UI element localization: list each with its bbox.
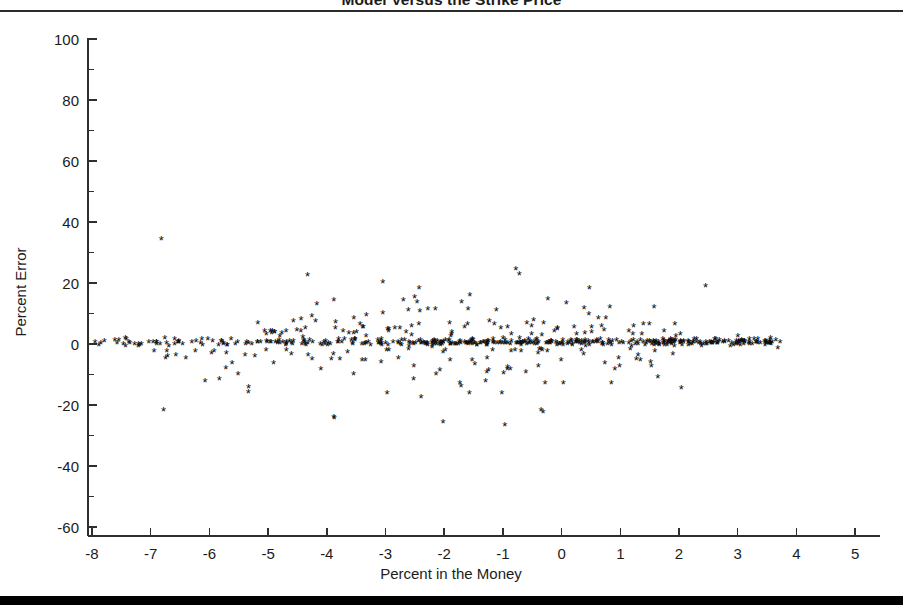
x-tick-label: 5 xyxy=(851,545,859,562)
data-point: * xyxy=(397,322,402,337)
data-point: * xyxy=(224,347,229,362)
data-point: * xyxy=(305,269,310,284)
data-point: * xyxy=(289,348,294,363)
data-point: * xyxy=(467,387,472,402)
data-point: * xyxy=(246,381,251,396)
figure-page: Model Versus the Strike Price -8-7-6-5-4… xyxy=(0,0,903,610)
data-point: * xyxy=(159,233,164,248)
data-point: * xyxy=(628,343,633,358)
data-point: * xyxy=(589,321,594,336)
data-point: * xyxy=(487,315,492,330)
data-point: * xyxy=(419,391,424,406)
data-point: * xyxy=(647,318,652,333)
data-point: * xyxy=(309,353,314,368)
data-point: * xyxy=(602,324,607,339)
data-point: * xyxy=(270,325,275,340)
data-point: * xyxy=(243,349,248,364)
data-point: * xyxy=(609,377,614,392)
data-point: * xyxy=(449,326,454,341)
x-tick-labels: -8-7-6-5-4-3-2-1012345 xyxy=(85,545,859,562)
data-point: * xyxy=(209,347,214,362)
data-point: * xyxy=(360,321,365,336)
data-point: * xyxy=(768,332,773,347)
data-point: * xyxy=(262,325,267,340)
data-point: * xyxy=(443,344,448,359)
data-point: * xyxy=(351,312,356,327)
data-point: * xyxy=(264,344,269,359)
y-tick-labels: -60-40-20020406080100 xyxy=(54,31,79,536)
data-point: * xyxy=(519,345,524,360)
data-point: * xyxy=(351,368,356,383)
data-point: * xyxy=(755,333,760,348)
data-point: * xyxy=(541,406,546,421)
y-tick-label: -20 xyxy=(57,397,79,414)
scatter-plot: -8-7-6-5-4-3-2-1012345 -60-40-2002040608… xyxy=(0,12,903,592)
data-point: * xyxy=(581,348,586,363)
x-tick-label: 3 xyxy=(734,545,742,562)
data-point: * xyxy=(173,349,178,364)
data-point: * xyxy=(255,317,260,332)
data-point: * xyxy=(707,336,712,351)
data-point: * xyxy=(340,325,345,340)
y-tick-label: 100 xyxy=(54,31,79,48)
x-tick-label: 0 xyxy=(557,545,565,562)
data-point: * xyxy=(523,366,528,381)
data-point: * xyxy=(152,345,157,360)
y-tick-label: 0 xyxy=(71,336,79,353)
tick-marks-group xyxy=(88,39,855,536)
data-point: * xyxy=(441,416,446,431)
data-point: * xyxy=(747,336,752,351)
data-point: * xyxy=(536,347,541,362)
y-tick-label: 60 xyxy=(62,153,79,170)
x-tick-label: -6 xyxy=(203,545,216,562)
data-point: * xyxy=(607,336,612,351)
data-point: * xyxy=(648,356,653,371)
data-point: * xyxy=(203,375,208,390)
data-point: * xyxy=(587,282,592,297)
data-point: * xyxy=(404,326,409,341)
data-point: * xyxy=(217,373,222,388)
data-point: * xyxy=(193,345,198,360)
data-point: * xyxy=(505,361,510,376)
y-tick-label: 20 xyxy=(62,275,79,292)
data-point: * xyxy=(641,318,646,333)
axes-group xyxy=(88,38,880,536)
data-point: * xyxy=(703,280,708,295)
data-point: * xyxy=(323,335,328,350)
data-point: * xyxy=(728,340,733,355)
data-point: * xyxy=(502,419,507,434)
data-point: * xyxy=(560,334,565,349)
data-point: * xyxy=(509,328,514,343)
data-point: * xyxy=(602,357,607,372)
data-point: * xyxy=(92,336,97,351)
data-point: * xyxy=(735,338,740,353)
data-point: * xyxy=(638,354,643,369)
data-point: * xyxy=(368,339,373,354)
data-point: * xyxy=(180,338,185,353)
data-point: * xyxy=(416,318,421,333)
data-point: * xyxy=(459,296,464,311)
data-point: * xyxy=(345,346,350,361)
data-point: * xyxy=(513,344,518,359)
data-point: * xyxy=(378,356,383,371)
data-point: * xyxy=(484,336,489,351)
data-point: * xyxy=(571,321,576,336)
y-axis-title: Percent Error xyxy=(12,247,29,336)
data-point: * xyxy=(198,337,203,352)
data-point: * xyxy=(474,339,479,354)
data-point: * xyxy=(564,297,569,312)
data-point: * xyxy=(411,373,416,388)
data-point: * xyxy=(161,404,166,419)
data-points-group: ****************************************… xyxy=(92,233,782,434)
data-point: * xyxy=(409,320,414,335)
data-point: * xyxy=(678,328,683,343)
data-point: * xyxy=(425,303,430,318)
data-point: * xyxy=(545,293,550,308)
data-point: * xyxy=(466,338,471,353)
x-tick-label: 1 xyxy=(616,545,624,562)
data-point: * xyxy=(380,276,385,291)
data-point: * xyxy=(513,263,518,278)
data-point: * xyxy=(337,353,342,368)
data-point: * xyxy=(541,317,546,332)
data-point: * xyxy=(596,312,601,327)
